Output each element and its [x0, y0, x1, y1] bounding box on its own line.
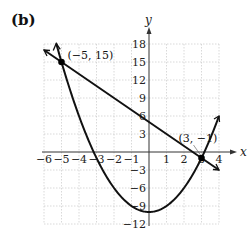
x-tick-label: 1	[163, 153, 170, 166]
point-label: (−5, 15)	[68, 49, 114, 62]
y-tick-label: 18	[132, 38, 146, 51]
y-tick-label: 9	[139, 92, 146, 105]
y-tick-label: −3	[130, 164, 146, 177]
x-tick-label: 2	[181, 153, 188, 166]
y-tick-label: 3	[139, 128, 146, 141]
x-tick-label: −4	[71, 153, 87, 166]
y-tick-label: −12	[123, 218, 146, 231]
graph: xy −6−5−4−3−2−11234−12−9−6−3369121518 (−…	[0, 0, 249, 241]
y-tick-label: 15	[132, 56, 146, 69]
x-tick-label: −5	[53, 153, 69, 166]
y-tick-label: −6	[130, 182, 146, 195]
x-axis-arrow-icon	[230, 150, 237, 155]
intersection-point	[198, 155, 205, 162]
y-tick-label: 12	[132, 74, 146, 87]
y-axis-arrow-icon	[147, 27, 152, 34]
intersection-point	[58, 59, 65, 66]
point-label: (3, −1)	[179, 132, 218, 145]
y-axis-label: y	[144, 13, 152, 27]
x-tick-label: −6	[36, 153, 52, 166]
x-tick-label: −2	[106, 153, 122, 166]
x-axis-label: x	[240, 145, 247, 159]
